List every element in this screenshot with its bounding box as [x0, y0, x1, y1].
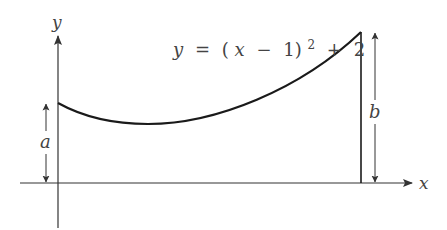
eq-var: x	[235, 39, 245, 60]
eq-plus: +	[327, 39, 342, 60]
equation-label: y = ( x − 1) 2 + 2	[172, 32, 365, 60]
eq-minus: −	[256, 39, 271, 60]
parabola-diagram: y x a b y = ( x − 1) 2 + 2	[0, 0, 447, 230]
b-label: b	[369, 101, 381, 122]
a-label: a	[40, 131, 51, 152]
x-axis-label: x	[419, 173, 429, 193]
svg-text:y = (: y = ( x − 1) 2 + 2	[172, 32, 365, 60]
eq-const: 2	[354, 39, 365, 60]
eq-one: 1)	[283, 39, 301, 60]
y-axis-label: y	[51, 12, 62, 32]
eq-lhs: y	[172, 39, 184, 60]
eq-open-paren: (	[222, 39, 229, 60]
eq-equals: =	[195, 39, 210, 60]
eq-exponent: 2	[307, 38, 315, 52]
